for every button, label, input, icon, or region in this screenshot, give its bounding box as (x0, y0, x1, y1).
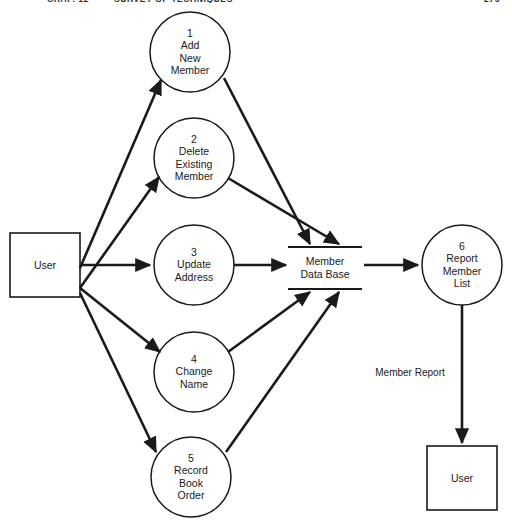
diagram-canvas (0, 0, 512, 527)
flow-process-5-to-datastore (226, 292, 339, 452)
process-circle-4 (154, 332, 234, 412)
process-circle-6 (422, 225, 502, 305)
flow-user-to-process-2 (80, 177, 159, 288)
process-circle-5 (151, 437, 231, 517)
diagram-page: CHAP. 12 SURVEY OF TECHNIQUES 275 (0, 0, 512, 527)
process-circle-2 (154, 118, 234, 198)
flow-process-4-to-datastore (228, 292, 310, 352)
flow-user-to-process-1 (80, 80, 161, 268)
external-entity-user-bottom (427, 446, 497, 510)
flow-process-2-to-datastore (228, 178, 339, 244)
process-circle-1 (150, 12, 230, 92)
external-entity-user-left (10, 233, 80, 297)
process-circle-3 (154, 225, 234, 305)
